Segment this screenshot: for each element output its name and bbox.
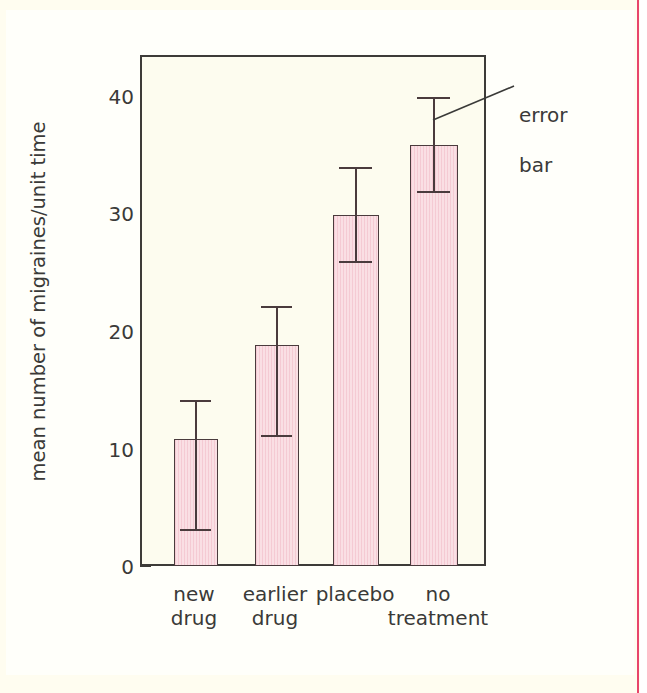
error-bar-cap-lower-no-treatment — [417, 191, 450, 193]
error-bar-cap-lower-new-drug — [180, 529, 211, 531]
error-bar-stem-placebo — [355, 168, 357, 262]
bar-no-treatment[interactable] — [410, 145, 458, 566]
x-category-no-treatment: no treatment — [384, 582, 492, 631]
error-bar-cap-lower-placebo — [339, 261, 372, 263]
y-tick-label-30: 30 — [92, 204, 134, 224]
annotation-line-1: error — [519, 103, 567, 128]
error-bar-cap-lower-earlier-drug — [261, 435, 292, 437]
error-bar-stem-no-treatment — [433, 98, 435, 192]
y-tick-label-10: 10 — [92, 440, 134, 460]
annotation-error-bar: error bar — [519, 78, 567, 203]
bar-placebo[interactable] — [333, 215, 379, 566]
bar-chart-figure: mean number of migraines/unit time 40 30… — [0, 0, 647, 693]
y-tick-label-0: 0 — [92, 557, 134, 577]
x-category-earlier-drug-line2: drug — [227, 606, 323, 630]
annotation-line-2: bar — [519, 153, 567, 178]
error-bar-cap-upper-earlier-drug — [261, 306, 292, 308]
y-tick-label-20: 20 — [92, 322, 134, 342]
plot-area — [140, 55, 486, 566]
y-axis-label: mean number of migraines/unit time — [27, 112, 50, 492]
error-bar-cap-upper-placebo — [339, 167, 372, 169]
error-bar-stem-new-drug — [195, 401, 197, 531]
y-tick-label-40: 40 — [92, 87, 134, 107]
error-bar-cap-upper-no-treatment — [417, 97, 450, 99]
error-bar-stem-earlier-drug — [276, 307, 278, 437]
x-category-no-treatment-line1: no — [384, 582, 492, 606]
error-bar-cap-upper-new-drug — [180, 400, 211, 402]
x-category-no-treatment-line2: treatment — [384, 606, 492, 630]
